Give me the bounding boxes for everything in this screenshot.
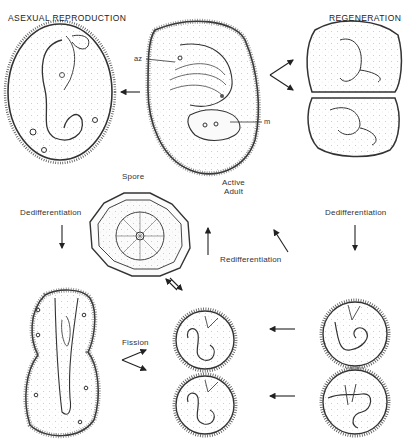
label-active-adult: Active Adult	[222, 178, 245, 196]
life-cycle-diagram	[0, 0, 408, 446]
regenerating-cell-upper	[307, 21, 401, 92]
label-dedifferentiation-left: Dedifferentiation	[20, 208, 82, 217]
arrow-to-regeneration-upper	[270, 60, 293, 75]
asexual-adult-cell	[5, 21, 115, 163]
arrow-fission-lower	[122, 360, 146, 370]
arrow-fission-upper	[122, 350, 146, 360]
label-fission: Fission	[122, 338, 149, 347]
heading-regeneration: REGENERATION	[329, 13, 401, 23]
arrow-redifferentiation-diagonal	[274, 230, 288, 252]
label-active-adult-line1: Active	[222, 178, 245, 187]
label-dedifferentiation-right: Dedifferentiation	[325, 208, 387, 217]
arrow-to-regeneration-lower	[270, 75, 293, 90]
active-adult-cell	[146, 21, 262, 173]
label-active-adult-line2: Adult	[222, 187, 245, 196]
regenerating-cell-lower	[308, 98, 399, 157]
arrow-from-spore	[170, 278, 182, 290]
label-spore: Spore	[122, 172, 144, 181]
redifferentiating-cyst-lower	[174, 374, 236, 436]
arrow-to-spore	[166, 279, 177, 290]
label-az: az	[134, 54, 142, 63]
redifferentiating-cyst-upper	[174, 309, 236, 371]
spore	[90, 193, 190, 276]
dedifferentiating-cyst-upper	[321, 300, 389, 368]
dedifferentiating-cyst-lower	[321, 368, 389, 436]
label-redifferentiation: Redifferentiation	[220, 255, 282, 264]
dividing-cell	[26, 290, 98, 436]
heading-asexual-reproduction: ASEXUAL REPRODUCTION	[8, 13, 126, 23]
label-m: m	[264, 117, 270, 126]
